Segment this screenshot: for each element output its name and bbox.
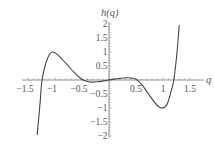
x-tick-label: −1 (47, 84, 57, 94)
x-axis-label: q (206, 74, 211, 85)
x-tick-label: −0.5 (70, 84, 87, 94)
x-tick-label: 1.5 (184, 84, 196, 94)
y-axis-label: h(q) (101, 7, 119, 19)
y-tick-label: −1.5 (90, 117, 107, 127)
y-tick-label: −2 (97, 131, 107, 141)
chart-canvas: −1.5−1−0.50.511.521.510.5−0.5−1−1.5−2 h(… (0, 0, 214, 148)
y-tick-label: −0.5 (90, 89, 107, 99)
y-tick-label: 1 (103, 47, 108, 57)
y-tick-label: 1.5 (96, 33, 108, 43)
y-tick-label: 0.5 (96, 61, 108, 71)
x-tick-label: 0.5 (130, 84, 142, 94)
x-tick-label: 1 (161, 84, 166, 94)
y-tick-label: −1 (97, 103, 107, 113)
y-tick-label: 2 (103, 19, 108, 29)
x-tick-label: −1.5 (16, 84, 33, 94)
